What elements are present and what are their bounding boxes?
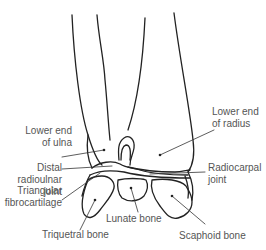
label-line: joint [208, 174, 261, 186]
label-triangular-fibrocartilage: Triangular fibrocartilage [0, 185, 62, 209]
ulna-inner-outline [97, 15, 110, 140]
label-radiocarpal-joint: Radiocarpal joint [208, 162, 261, 186]
label-line: Lower end [212, 106, 259, 118]
ulnar-styloid [119, 137, 135, 165]
label-line: of radius [212, 118, 259, 130]
radius-outline-left [128, 18, 145, 130]
label-line: fibrocartilage [0, 197, 62, 209]
radius-outline-right [174, 13, 194, 172]
label-line: Lower end [14, 125, 72, 137]
label-lower-end-radius: Lower end of radius [212, 106, 259, 130]
label-scaphoid-bone: Scaphoid bone [179, 230, 246, 242]
label-lower-end-ulna: Lower end of ulna [14, 125, 72, 149]
label-line: Distal [2, 162, 62, 174]
lunate-bone [118, 179, 148, 201]
label-line: Triangular [0, 185, 62, 197]
label-line: of ulna [14, 137, 72, 149]
label-lunate-bone: Lunate bone [106, 213, 162, 225]
wrist-joint-diagram: Lower end of ulna Distal radioulnar join… [0, 0, 266, 250]
label-triquetral-bone: Triquetral bone [42, 229, 109, 241]
label-line: Radiocarpal [208, 162, 261, 174]
